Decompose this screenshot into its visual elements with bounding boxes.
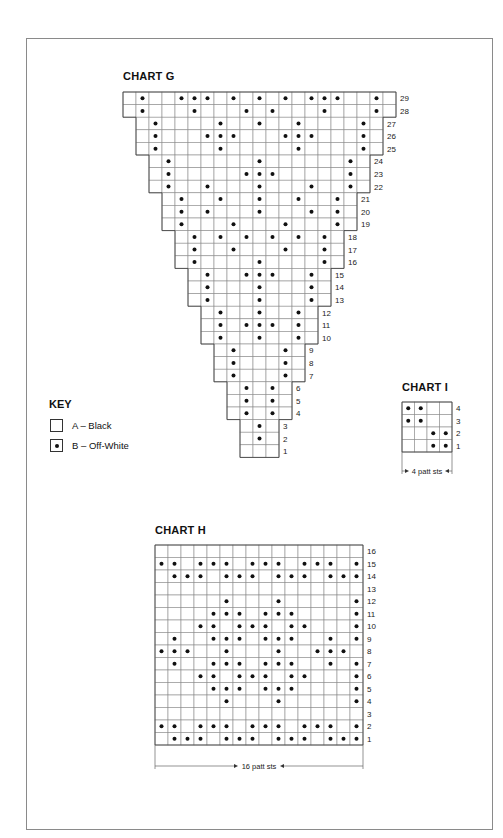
stitch-cell [155,570,168,583]
stitch-cell [298,683,311,696]
chart-row: 6 [227,382,301,395]
stitch-cell [357,155,370,168]
stitch-cell [246,545,259,558]
row-number: 4 [367,697,372,706]
stitch-cell [227,231,240,244]
off-white-stitch-dot [212,612,216,616]
off-white-stitch-dot [329,724,333,728]
off-white-stitch-dot [141,96,145,100]
stitch-cell [168,708,181,721]
stitch-cell [181,670,194,683]
row-number: 6 [367,672,372,681]
stitch-cell [318,142,331,155]
stitch-cell [266,193,279,206]
stitch-cell [194,645,207,658]
stitch-cell [214,294,227,307]
off-white-stitch-dot [349,159,353,163]
off-white-stitch-dot [193,260,197,264]
stitch-cell [337,583,350,596]
off-white-stitch-dot [290,624,294,628]
stitch-cell [246,695,259,708]
stitch-cell [240,256,253,269]
chart-row: 15 [188,268,344,281]
stitch-cell [201,319,214,332]
stitch-cell [201,142,214,155]
stitch-cell [253,344,266,357]
stitch-cell [311,683,324,696]
stitch-cell [305,331,318,344]
chart-row: 5 [155,683,372,696]
off-white-stitch-dot [329,574,333,578]
chart-row: 7 [214,369,314,382]
stitch-cell [194,708,207,721]
off-white-stitch-dot [245,273,249,277]
off-white-stitch-dot [271,273,275,277]
stitch-cell [181,620,194,633]
off-white-stitch-dot [225,599,229,603]
off-white-stitch-dot [225,687,229,691]
stitch-cell [311,670,324,683]
off-white-stitch-dot [251,737,255,741]
stitch-cell [266,180,279,193]
stitch-cell [272,670,285,683]
off-white-stitch-dot [258,311,262,315]
stitch-cell [162,142,175,155]
off-white-stitch-dot [271,386,275,390]
off-white-stitch-dot [258,298,262,302]
off-white-stitch-dot [186,649,190,653]
stitch-cell [298,545,311,558]
off-white-stitch-dot [258,96,262,100]
off-white-stitch-dot [290,662,294,666]
stitch-cell [240,357,253,370]
stitch-cell [227,180,240,193]
chart-i-grid: 43214 patt sts [402,402,461,476]
off-white-stitch-dot [277,599,281,603]
off-white-stitch-dot [419,419,423,423]
off-white-stitch-dot [186,574,190,578]
off-white-stitch-dot [245,411,249,415]
off-white-stitch-dot [173,662,177,666]
stitch-cell [168,683,181,696]
stitch-cell [194,608,207,621]
off-white-stitch-dot [232,134,236,138]
stitch-cell [292,357,305,370]
stitch-cell [272,583,285,596]
off-white-stitch-dot [375,96,379,100]
off-white-stitch-dot [160,649,164,653]
off-white-stitch-dot [180,210,184,214]
stitch-cell [350,708,363,721]
stitch-cell [298,583,311,596]
stitch-cell [311,570,324,583]
stitch-cell [279,105,292,118]
stitch-cell [227,382,240,395]
stitch-cell [350,583,363,596]
stitch-cell [370,142,383,155]
stitch-cell [155,583,168,596]
stitch-cell [337,695,350,708]
stitch-cell [305,231,318,244]
stitch-cell [201,155,214,168]
stitch-cell [298,645,311,658]
off-white-stitch-dot [336,197,340,201]
stitch-cell [318,117,331,130]
chart-row: 2 [240,432,288,445]
stitch-cell [298,658,311,671]
stitch-cell [175,243,188,256]
stitch-cell [298,695,311,708]
stitch-cell [220,545,233,558]
stitch-cell [240,243,253,256]
arrow-right-icon [234,764,238,768]
stitch-cell [227,268,240,281]
stitch-cell [175,180,188,193]
row-number: 20 [361,208,370,217]
off-white-stitch-dot [258,424,262,428]
stitch-cell [214,344,227,357]
off-white-stitch-dot [362,122,366,126]
chart-row: 13 [155,583,376,596]
stitch-cell [318,180,331,193]
stitch-cell [383,105,396,118]
row-number: 18 [348,233,357,242]
stitch-cell [279,256,292,269]
stitch-cell [285,583,298,596]
stitch-cell [181,583,194,596]
